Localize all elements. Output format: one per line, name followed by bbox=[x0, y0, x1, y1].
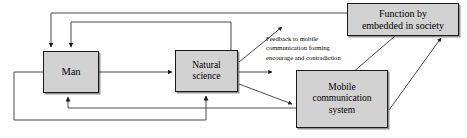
diagram-canvas: Man Natural science Function by embedded… bbox=[0, 0, 467, 138]
node-function-by-embedded-in-society[interactable]: Function by embedded in society bbox=[347, 3, 459, 36]
node-mobile-communication-system-label: Mobile communication system bbox=[310, 82, 373, 116]
node-natural-science-label: Natural science bbox=[190, 60, 223, 82]
node-man[interactable]: Man bbox=[43, 51, 99, 93]
node-natural-science[interactable]: Natural science bbox=[175, 50, 238, 92]
node-function-by-embedded-in-society-label: Function by embedded in society bbox=[360, 8, 446, 32]
node-mobile-communication-system[interactable]: Mobile communication system bbox=[296, 70, 388, 128]
edge-natural-science-to-man-top bbox=[71, 22, 231, 50]
edge-mobile-comm-to-man-bottom bbox=[68, 97, 296, 108]
node-man-label: Man bbox=[59, 66, 82, 78]
edge-natural-science-to-mobile-comm bbox=[239, 84, 292, 104]
edge-mobile-comm-to-function-society bbox=[389, 38, 441, 110]
feedback-annotation: Feedback to mobile communication forming… bbox=[266, 34, 358, 62]
